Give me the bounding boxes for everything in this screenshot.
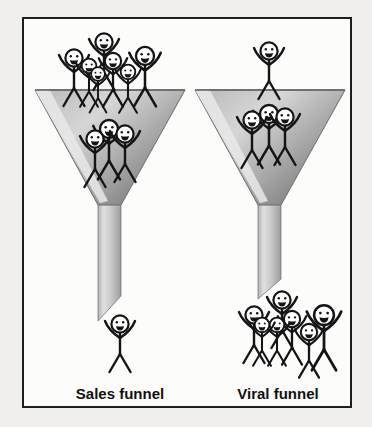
viral-funnel [195,42,345,377]
stick-figure [295,324,324,378]
sales-figure-exiting [105,315,135,372]
viral-figures-exiting [239,291,341,377]
stick-figure [105,315,135,372]
funnel-comparison-diagram: Sales funnel Viral funnel [24,19,350,406]
sales-funnel-label: Sales funnel [76,385,164,402]
diagram-frame: Sales funnel Viral funnel [22,17,352,408]
viral-funnel-label: Viral funnel [237,385,318,402]
sales-funnel [35,33,185,372]
sales-funnel-stem [98,203,121,321]
viral-funnel-stem [258,203,281,299]
scanned-page: Sales funnel Viral funnel [0,0,372,427]
